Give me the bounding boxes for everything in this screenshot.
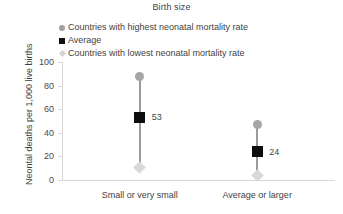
data-point-label: 53 — [152, 112, 162, 122]
circle-marker-icon — [56, 22, 68, 33]
data-point-diamond[interactable] — [133, 161, 146, 174]
diamond-marker-icon — [56, 48, 68, 59]
y-tick-label: 40 — [24, 128, 54, 138]
y-tick-mark — [58, 180, 62, 181]
chart-title: Birth size — [0, 2, 343, 12]
square-marker-icon — [56, 35, 68, 46]
legend-label-lowest: Countries with lowest neonatal mortality… — [68, 48, 245, 59]
y-tick-label: 20 — [24, 151, 54, 161]
data-point-square[interactable] — [252, 146, 263, 157]
x-axis-category-label: Average or larger — [223, 190, 292, 200]
data-point-diamond[interactable] — [251, 169, 264, 182]
y-tick-label: 0 — [24, 175, 54, 185]
data-point-square[interactable] — [134, 112, 145, 123]
data-point-label: 24 — [269, 147, 279, 157]
legend-item-average: Average — [56, 35, 248, 46]
chart-legend: Countries with highest neonatal mortalit… — [56, 22, 248, 59]
y-tick-label: 100 — [24, 57, 54, 67]
data-point-circle[interactable] — [135, 72, 144, 81]
chart-container: Birth size Countries with highest neonat… — [0, 0, 343, 214]
x-axis-line — [62, 180, 335, 181]
legend-item-lowest: Countries with lowest neonatal mortality… — [56, 48, 248, 59]
legend-label-highest: Countries with highest neonatal mortalit… — [68, 22, 248, 33]
legend-label-average: Average — [68, 35, 101, 46]
x-axis-category-label: Small or very small — [102, 190, 178, 200]
legend-item-highest: Countries with highest neonatal mortalit… — [56, 22, 248, 33]
y-tick-label: 80 — [24, 81, 54, 91]
y-tick-label: 60 — [24, 104, 54, 114]
data-point-circle[interactable] — [253, 120, 262, 129]
plot-area: 5324 — [62, 62, 335, 180]
